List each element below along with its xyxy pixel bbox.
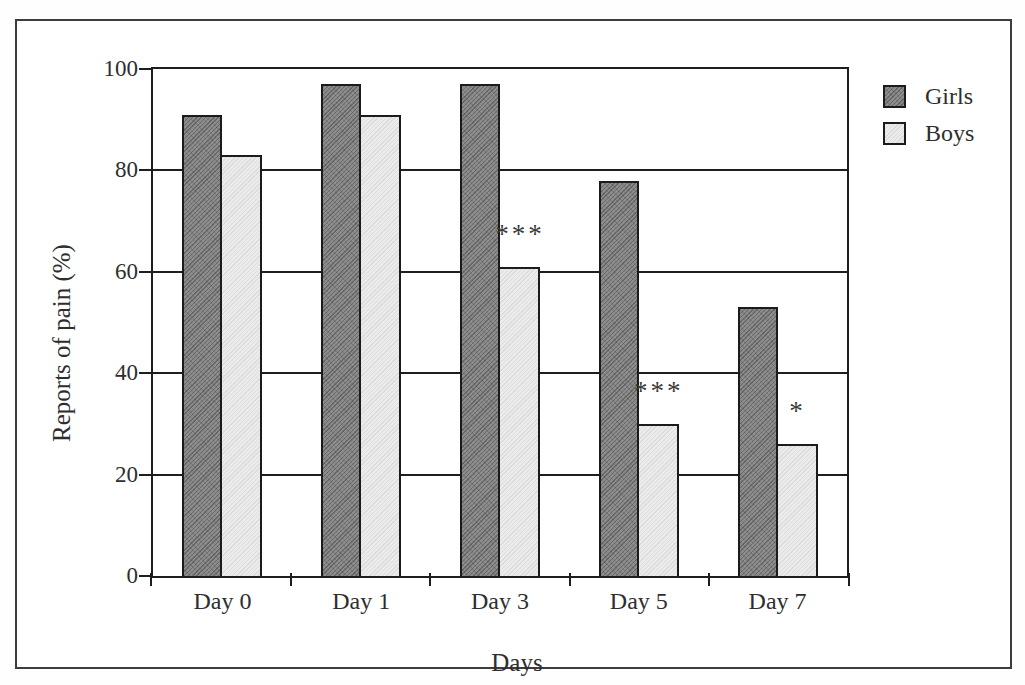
x-tick-label-day-1: Day 1 bbox=[291, 586, 431, 616]
figure: Reports of pain (%) Days Girls Boys 0204… bbox=[0, 0, 1025, 685]
plot-area bbox=[151, 67, 849, 578]
y-tick-label-40: 40 bbox=[56, 358, 138, 388]
bar-girls-day-7 bbox=[738, 307, 778, 576]
legend-label-girls: Girls bbox=[925, 84, 973, 108]
x-tick-1 bbox=[290, 573, 292, 586]
bar-girls-day-1 bbox=[321, 84, 361, 576]
legend-label-boys: Boys bbox=[925, 121, 974, 145]
y-tick-label-0: 0 bbox=[56, 561, 138, 591]
y-tick-100 bbox=[139, 68, 151, 70]
y-tick-20 bbox=[139, 474, 151, 476]
x-tick-label-day-3: Day 3 bbox=[430, 586, 570, 616]
x-tick-5 bbox=[848, 573, 850, 586]
bar-boys-day-7 bbox=[776, 444, 818, 576]
significance-marker-day-3: *** bbox=[470, 219, 570, 249]
x-tick-3 bbox=[569, 573, 571, 586]
legend-item-boys: Boys bbox=[883, 121, 974, 145]
x-axis-title: Days bbox=[417, 647, 617, 679]
boys-swatch-icon bbox=[883, 122, 906, 145]
significance-marker-day-7: * bbox=[748, 396, 848, 426]
x-tick-label-day-5: Day 5 bbox=[569, 586, 709, 616]
bar-boys-day-3 bbox=[498, 267, 540, 576]
x-tick-label-day-0: Day 0 bbox=[152, 586, 292, 616]
bar-boys-day-5 bbox=[637, 424, 679, 576]
significance-marker-day-5: *** bbox=[609, 376, 709, 406]
bar-boys-day-0 bbox=[220, 155, 262, 576]
x-tick-0 bbox=[150, 573, 152, 586]
x-tick-4 bbox=[708, 573, 710, 586]
legend: Girls Boys bbox=[883, 84, 974, 158]
y-tick-80 bbox=[139, 169, 151, 171]
y-tick-label-20: 20 bbox=[56, 460, 138, 490]
x-tick-2 bbox=[429, 573, 431, 586]
y-tick-label-60: 60 bbox=[56, 257, 138, 287]
x-tick-label-day-7: Day 7 bbox=[708, 586, 848, 616]
bar-girls-day-3 bbox=[460, 84, 500, 576]
bar-girls-day-0 bbox=[182, 115, 222, 576]
y-tick-label-80: 80 bbox=[56, 155, 138, 185]
girls-swatch-icon bbox=[883, 85, 906, 108]
bar-boys-day-1 bbox=[359, 115, 401, 576]
y-tick-60 bbox=[139, 271, 151, 273]
y-tick-label-100: 100 bbox=[56, 54, 138, 84]
legend-item-girls: Girls bbox=[883, 84, 974, 108]
y-tick-40 bbox=[139, 372, 151, 374]
